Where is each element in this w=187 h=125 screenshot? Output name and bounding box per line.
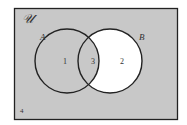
region-1-label: 1	[63, 57, 67, 66]
set-b-label: B	[139, 32, 145, 42]
set-a-label: A	[39, 32, 46, 42]
region-4-label: 4	[20, 107, 24, 115]
venn-diagram: 𝒰 A B 1 2 3 4	[0, 0, 187, 125]
region-3-label: 3	[91, 57, 95, 66]
region-2-label: 2	[120, 57, 124, 66]
